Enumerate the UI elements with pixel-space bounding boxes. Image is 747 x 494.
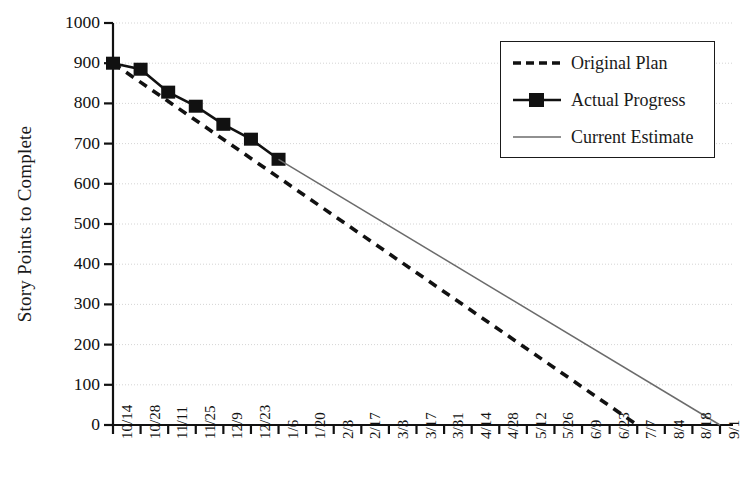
x-axis-tick-label: 3/17 [423,412,440,439]
x-axis-tick-label: 5/26 [560,412,577,439]
y-axis-ticks [104,23,113,425]
legend-label-original-plan: Original Plan [571,53,668,74]
x-axis-tick-label: 4/28 [505,412,522,439]
data-point-marker [244,133,258,146]
legend-label-current-estimate: Current Estimate [571,127,693,148]
solid-line-square-marker-sample [511,91,563,109]
data-point-marker [161,86,175,99]
y-axis-tick-label: 400 [28,253,100,274]
x-axis-tick-label: 4/14 [478,412,495,439]
x-axis-tick-label: 8/18 [698,412,715,439]
legend-item-current-estimate: Current Estimate [511,122,693,152]
y-axis-tick-label: 800 [28,92,100,113]
x-axis-tick-label: 12/9 [229,412,246,439]
y-axis-tick-label: 200 [28,334,100,355]
burndown-chart: Story Points to Complete 010020030040050… [0,0,747,494]
y-axis-tick-label: 600 [28,173,100,194]
data-point-marker [216,118,230,131]
x-axis-tick-label: 3/31 [450,412,467,439]
data-point-marker [106,57,120,70]
thin-line-sample [511,128,563,146]
x-axis-tick-label: 2/3 [340,420,357,439]
legend-label-actual-progress: Actual Progress [571,90,685,111]
x-axis-tick-label: 1/6 [285,420,302,439]
x-axis-tick-label: 10/28 [147,405,164,439]
x-axis-tick-label: 6/9 [588,420,605,439]
y-axis-tick-label: 300 [28,293,100,314]
x-axis-tick-label: 11/25 [202,405,219,439]
legend-item-actual-progress: Actual Progress [511,85,685,115]
y-axis-tick-label: 1000 [28,12,100,33]
x-axis-tick-label: 10/14 [119,405,136,439]
legend-item-original-plan: Original Plan [511,48,668,78]
x-axis-tick-label: 5/12 [533,412,550,439]
x-axis-tick-label: 1/20 [312,412,329,439]
x-axis-tick-label: 6/23 [616,412,633,439]
y-axis-tick-label: 100 [28,374,100,395]
x-axis-tick-label: 2/17 [367,412,384,439]
y-axis-tick-label: 500 [28,213,100,234]
y-axis-tick-label: 700 [28,133,100,154]
x-axis-tick-label: 12/23 [257,405,274,439]
x-axis-tick-label: 11/11 [174,406,191,439]
x-axis-tick-label: 8/4 [671,420,688,439]
dashed-line-sample [511,54,563,72]
y-axis-tick-label: 0 [28,414,100,435]
x-axis-tick-label: 9/1 [726,420,743,439]
chart-legend: Original Plan Actual Progress Current Es… [500,41,715,158]
y-axis-tick-label: 900 [28,52,100,73]
data-point-marker [189,100,203,113]
x-axis-tick-label: 3/3 [395,420,412,439]
x-axis-tick-label: 7/7 [643,420,660,439]
data-point-marker [134,63,148,76]
